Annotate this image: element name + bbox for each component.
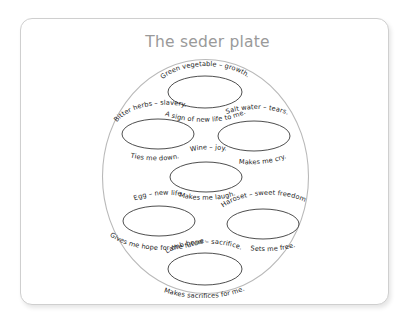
oval-haroset[interactable] [227,209,299,239]
seder-plate-diagram: Green vegetable – growth. A sign of new … [0,0,415,326]
oval-lamb-bone[interactable] [168,253,242,285]
oval-bitter-herbs[interactable] [122,119,194,149]
page-root: The seder plate [0,0,415,326]
oval-salt-water[interactable] [218,121,290,151]
oval-egg[interactable] [123,206,195,236]
oval-wine[interactable] [170,162,242,192]
